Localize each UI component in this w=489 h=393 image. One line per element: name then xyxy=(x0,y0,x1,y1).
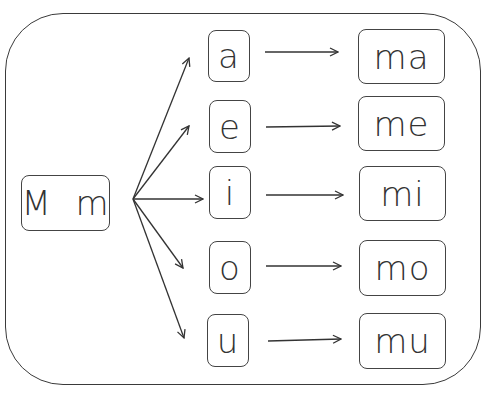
branch-arrow-u xyxy=(133,199,184,338)
vowel-box-e: e xyxy=(209,100,251,153)
syllable-box-mu: mu xyxy=(359,313,446,369)
branch-arrow-o xyxy=(133,199,183,268)
branch-arrow-e xyxy=(133,126,189,199)
syllable-box-mi: mi xyxy=(359,166,446,221)
syllable-box-mo: mo xyxy=(359,240,446,296)
source-letter-box: M m xyxy=(21,175,110,231)
vowel-box-u: u xyxy=(207,314,249,367)
vowel-box-o: o xyxy=(209,241,251,294)
syllable-box-ma: ma xyxy=(358,29,445,84)
result-arrow-me xyxy=(266,126,340,127)
vowel-box-a: a xyxy=(208,30,250,82)
result-arrow-mu xyxy=(268,339,341,341)
branch-arrow-a xyxy=(133,58,189,199)
vowel-box-i: i xyxy=(209,166,251,219)
syllable-box-me: me xyxy=(358,96,445,151)
